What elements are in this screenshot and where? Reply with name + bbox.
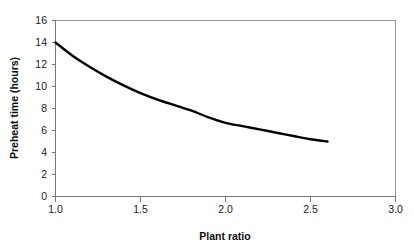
x-tick-label-5: 3.0 <box>388 203 403 215</box>
y-axis-title: Preheat time (hours) <box>8 57 20 159</box>
x-axis-title: Plant ratio <box>199 230 250 242</box>
y-tick-label-4: 4 <box>41 146 47 158</box>
y-tick-label-6: 6 <box>41 124 47 136</box>
y-tick-label-2: 2 <box>41 168 47 180</box>
y-tick-label-0: 0 <box>41 190 47 202</box>
y-tick-label-16: 16 <box>35 14 47 26</box>
x-tick-label-4: 2.5 <box>303 203 318 215</box>
x-tick-label-3: 2.0 <box>218 203 233 215</box>
y-tick-label-12: 12 <box>35 58 47 70</box>
x-tick-label-1: 1.0 <box>48 203 63 215</box>
y-tick-label-8: 8 <box>41 102 47 114</box>
chart-container: 16 14 12 10 8 6 4 2 0 1.0 1.5 2.0 2.5 3.… <box>0 0 414 251</box>
x-tick-label-2: 1.5 <box>133 203 148 215</box>
line-chart: 16 14 12 10 8 6 4 2 0 1.0 1.5 2.0 2.5 3.… <box>0 0 414 251</box>
y-tick-label-10: 10 <box>35 80 47 92</box>
y-tick-label-14: 14 <box>35 36 47 48</box>
